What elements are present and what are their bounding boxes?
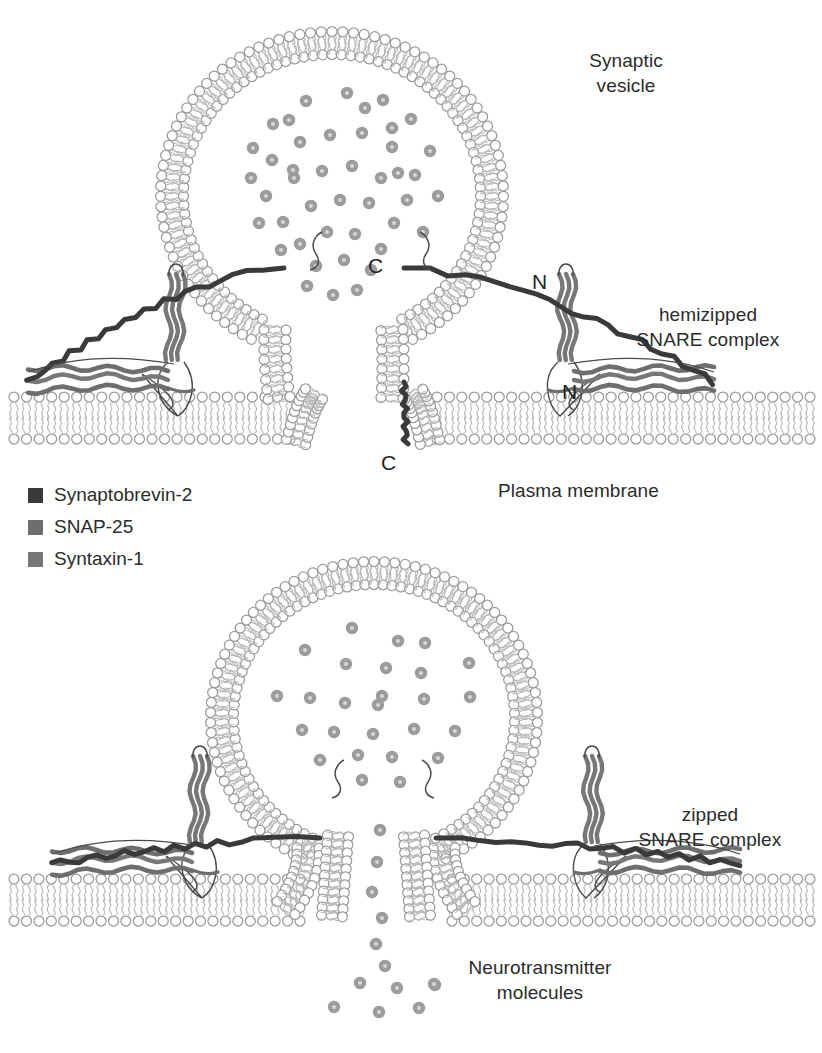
label-synaptic-vesicle: Synaptic vesicle xyxy=(536,48,716,98)
membrane-dimple-top-panel xyxy=(281,384,444,450)
label-plasma-membrane: Plasma membrane xyxy=(498,478,659,503)
legend-swatch-synaptobrevin xyxy=(28,488,43,503)
neurotransmitters-bottom-panel xyxy=(271,622,476,788)
terminal-marker-n-lower: N xyxy=(562,380,577,404)
legend-swatch-syntaxin xyxy=(28,552,43,567)
syntaxin-habc-domain-bottom-right xyxy=(583,746,603,842)
legend-swatch-snap25 xyxy=(28,520,43,535)
terminal-marker-c-top: C xyxy=(368,254,383,278)
legend-label-snap25: SNAP-25 xyxy=(54,516,133,538)
syntaxin-habc-domain-bottom-left xyxy=(189,746,209,842)
legend-label-syntaxin: Syntaxin-1 xyxy=(54,548,144,570)
syntaxin-habc-domain-top-left xyxy=(165,264,185,360)
legend-label-synaptobrevin: Synaptobrevin-2 xyxy=(54,484,192,506)
synaptic-vesicle-top-panel xyxy=(156,27,509,405)
terminal-marker-c-bottom: C xyxy=(381,451,396,475)
legend-item-synaptobrevin: Synaptobrevin-2 xyxy=(28,481,192,509)
fusion-pore-bottom-panel xyxy=(317,830,436,922)
legend-item-syntaxin: Syntaxin-1 xyxy=(28,545,192,573)
label-zipped-snare-complex: zipped SNARE complex xyxy=(604,802,816,852)
label-hemizipped-snare-complex: hemizipped SNARE complex xyxy=(600,302,816,352)
juxtamembrane-linkers-bottom xyxy=(332,760,434,798)
snare-four-helix-bundle-top-left xyxy=(28,365,194,394)
label-neurotransmitter-molecules: Neurotransmitter molecules xyxy=(434,955,646,1005)
panel-zipped xyxy=(9,557,815,1019)
legend-item-snap25: SNAP-25 xyxy=(28,513,192,541)
terminal-marker-n-top-right: N xyxy=(532,270,547,294)
legend: Synaptobrevin-2 SNAP-25 Syntaxin-1 xyxy=(28,481,192,577)
